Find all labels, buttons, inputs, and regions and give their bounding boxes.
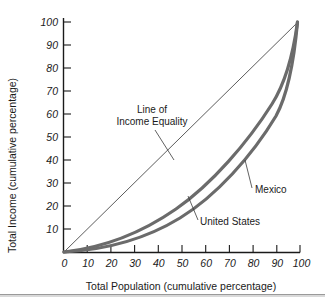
annotation-line-of-income-equality: Line of Income Equality bbox=[116, 104, 187, 160]
x-tick-label-20: 20 bbox=[105, 257, 118, 269]
y-tick-label-70: 70 bbox=[46, 85, 58, 97]
x-tick-label-70: 70 bbox=[224, 257, 236, 269]
x-axis-title: Total Population (cumulative percentage) bbox=[86, 280, 276, 292]
y-axis-title: Total Income (cumulative percentage) bbox=[6, 78, 18, 253]
y-axis-tick-labels: 100 90 80 70 60 50 40 30 20 10 bbox=[40, 16, 58, 235]
x-tick-label-100: 100 bbox=[293, 257, 311, 269]
line-of-income-equality-label-line2: Income Equality bbox=[116, 116, 187, 127]
mexico-leader bbox=[245, 160, 252, 188]
y-tick-label-30: 30 bbox=[46, 177, 58, 189]
x-tick-label-90: 90 bbox=[271, 257, 283, 269]
x-tick-label-60: 60 bbox=[200, 257, 212, 269]
lorenz-curve-chart: Total Income (cumulative percentage) Tot… bbox=[0, 0, 325, 303]
united-states-label: United States bbox=[200, 216, 260, 227]
y-tick-label-20: 20 bbox=[45, 200, 58, 212]
y-tick-label-10: 10 bbox=[46, 223, 58, 235]
x-tick-label-50: 50 bbox=[177, 257, 189, 269]
line-of-income-equality-leader bbox=[155, 130, 174, 160]
y-tick-label-60: 60 bbox=[46, 108, 58, 120]
x-tick-label-0: 0 bbox=[62, 257, 68, 269]
x-tick-label-30: 30 bbox=[129, 257, 141, 269]
y-tick-label-90: 90 bbox=[46, 39, 58, 51]
annotation-mexico: Mexico bbox=[245, 160, 287, 195]
y-axis-title-text: Total Income (cumulative percentage) bbox=[6, 78, 18, 253]
y-axis-ticks bbox=[64, 22, 72, 229]
y-tick-label-100: 100 bbox=[40, 16, 58, 28]
x-tick-label-40: 40 bbox=[153, 257, 165, 269]
mexico-label: Mexico bbox=[255, 184, 287, 195]
x-axis-title-text: Total Population (cumulative percentage) bbox=[86, 280, 276, 292]
y-tick-label-80: 80 bbox=[46, 62, 58, 74]
annotation-united-states: United States bbox=[188, 196, 260, 227]
y-tick-label-50: 50 bbox=[46, 131, 58, 143]
x-tick-label-10: 10 bbox=[82, 257, 94, 269]
line-of-income-equality-label-line1: Line of bbox=[137, 104, 167, 115]
chart-canvas: Total Income (cumulative percentage) Tot… bbox=[0, 0, 325, 303]
footer-divider bbox=[0, 294, 325, 297]
x-axis-tick-labels: 0 10 20 30 40 50 60 70 80 90 100 bbox=[62, 257, 311, 269]
x-tick-label-80: 80 bbox=[248, 257, 260, 269]
x-axis-ticks bbox=[87, 245, 300, 253]
y-tick-label-40: 40 bbox=[46, 154, 58, 166]
